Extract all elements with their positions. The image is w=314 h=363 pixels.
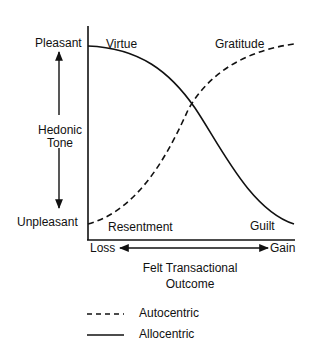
- curve-label-guilt: Guilt: [250, 220, 275, 233]
- y-axis-title-line2: Tone: [36, 137, 84, 150]
- legend-autocentric-label: Autocentric: [139, 307, 199, 320]
- x-axis-right-label: Gain: [270, 242, 295, 255]
- x-axis-left-label: Loss: [90, 242, 115, 255]
- curve-label-resentment: Resentment: [108, 221, 173, 234]
- x-axis-title-line1: Felt Transactional: [130, 262, 250, 275]
- legend-allocentric-label: Allocentric: [139, 328, 194, 341]
- x-axis-title-line2: Outcome: [130, 278, 250, 291]
- curve-label-virtue: Virtue: [106, 38, 137, 51]
- y-axis-title: Hedonic Tone: [36, 124, 84, 150]
- autocentric-curve: [88, 44, 294, 224]
- allocentric-curve: [88, 46, 294, 224]
- curve-label-gratitude: Gratitude: [215, 38, 264, 51]
- y-axis-bottom-label: Unpleasant: [17, 216, 78, 229]
- x-axis-title: Felt Transactional Outcome: [130, 262, 250, 291]
- y-axis-top-label: Pleasant: [35, 37, 82, 50]
